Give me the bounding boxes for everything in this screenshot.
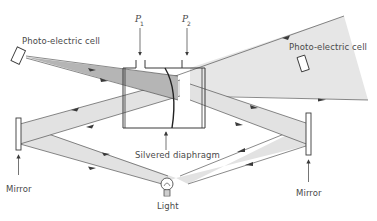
mirror-icon — [306, 113, 311, 155]
diagram-canvas: P 1 P 2 Photo-electric cell Photo-electr… — [0, 0, 377, 221]
beam-arrow-icon — [86, 125, 94, 129]
mirror-left-label: Mirror — [6, 184, 32, 194]
beam-arrow-icon — [235, 122, 243, 126]
diaphragm-label: Silvered diaphragm — [135, 150, 220, 160]
beam-arrow-icon — [88, 167, 96, 171]
light-label: Light — [157, 201, 179, 211]
beam-arrow-icon — [237, 148, 245, 152]
photocell-right-label: Photo-electric cell — [289, 42, 367, 52]
right-fan-beam — [150, 16, 368, 102]
mirror-right-label: Mirror — [296, 188, 322, 198]
p2-subscript: 2 — [187, 20, 191, 27]
diaphragm-callout: Silvered diaphragm — [135, 132, 220, 160]
photocell-left-label: Photo-electric cell — [22, 36, 100, 46]
mirror-icon — [16, 118, 21, 150]
p1-subscript: 1 — [140, 20, 144, 27]
photocell-icon — [11, 47, 25, 64]
light-bulb-icon — [161, 178, 173, 190]
pressure-inlets: P 1 P 2 — [134, 14, 191, 55]
apparatus-diagram: P 1 P 2 Photo-electric cell Photo-electr… — [0, 0, 377, 221]
left-photocell-beam — [26, 56, 178, 100]
